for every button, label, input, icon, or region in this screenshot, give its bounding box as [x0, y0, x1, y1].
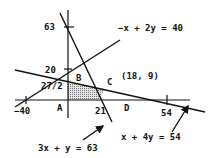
vertex-label-b: B: [76, 73, 82, 83]
equation-label-c3: x + 4y = 54: [121, 132, 181, 142]
vertex-label-a: A: [57, 103, 63, 113]
lp-diagram: −40 21 54 63 20 27/2 A B C (18, 9) D −x …: [0, 0, 215, 158]
vertex-label-c: C: [107, 77, 112, 87]
x-tick-label-neg40: −40: [14, 106, 30, 116]
x-tick-label-21: 21: [95, 106, 106, 116]
arrow-c1-leader: [83, 126, 103, 140]
y-tick-label-63: 63: [44, 22, 55, 32]
x-tick-label-54: 54: [161, 108, 172, 118]
y-tick-label-27-2: 27/2: [41, 81, 63, 91]
vertex-label-d: D: [124, 103, 130, 113]
y-tick-label-20: 20: [45, 65, 56, 75]
vertex-label-c-coords: (18, 9): [121, 71, 159, 81]
equation-label-c1: 3x + y = 63: [38, 143, 98, 153]
arrow-c3-leader: [172, 106, 188, 132]
equation-label-c2: −x + 2y = 40: [118, 23, 183, 33]
